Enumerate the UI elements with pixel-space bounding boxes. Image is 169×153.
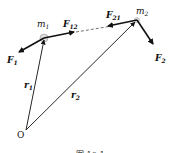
force-F2 — [137, 20, 153, 44]
label-m2: m2 — [136, 6, 149, 17]
label-F21: F21 — [105, 10, 121, 21]
label-m1: m1 — [37, 19, 49, 30]
dashed-connector — [76, 26, 112, 32]
label-F1: F1 — [6, 55, 18, 66]
label-F2: F2 — [154, 53, 166, 64]
figure-caption: 图 10-1 — [76, 150, 105, 153]
label-origin: O — [17, 130, 24, 140]
label-r2: r2 — [71, 90, 80, 101]
two-body-force-diagram: m1 F12 F21 m2 F1 F2 r1 r2 O 图 10-1 — [0, 0, 169, 153]
label-r1: r1 — [24, 80, 33, 91]
force-F12 — [44, 32, 74, 38]
force-F1 — [19, 38, 44, 52]
label-F12: F12 — [62, 19, 78, 30]
